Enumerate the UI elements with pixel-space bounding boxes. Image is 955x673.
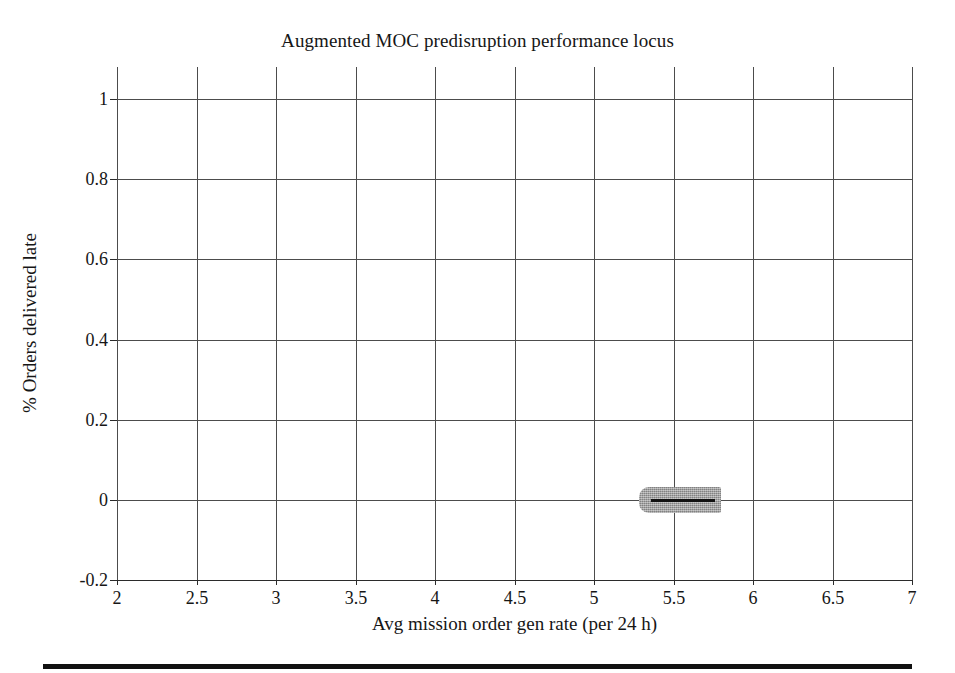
y-tick-label: 0.2 [86, 410, 109, 431]
y-tick-mark [110, 580, 117, 581]
x-tick-label: 2.5 [186, 588, 209, 609]
x-tick-mark [356, 580, 357, 585]
x-gridline [594, 67, 595, 580]
x-gridline [197, 67, 198, 580]
y-tick-label: -0.2 [80, 570, 109, 591]
x-tick-label: 4 [431, 588, 440, 609]
plot-area: 22.533.544.555.566.57-0.200.20.40.60.81 [117, 67, 912, 580]
x-tick-mark [515, 580, 516, 585]
y-gridline [117, 259, 912, 260]
series-core-line [651, 499, 716, 502]
x-gridline [753, 67, 754, 580]
x-tick-mark [912, 580, 913, 585]
y-tick-label: 0.4 [86, 330, 109, 351]
x-gridline [833, 67, 834, 580]
y-gridline [117, 340, 912, 341]
x-gridline [435, 67, 436, 580]
y-tick-label: 1 [99, 89, 108, 110]
x-tick-mark [674, 580, 675, 585]
x-tick-mark [197, 580, 198, 585]
x-tick-label: 4.5 [504, 588, 527, 609]
x-tick-mark [117, 580, 118, 585]
y-tick-label: 0.8 [86, 169, 109, 190]
x-tick-mark [753, 580, 754, 585]
x-tick-mark [833, 580, 834, 585]
y-tick-label: 0.6 [86, 249, 109, 270]
x-tick-label: 5.5 [663, 588, 686, 609]
y-tick-mark [110, 259, 117, 260]
chart-title: Augmented MOC predisruption performance … [0, 30, 955, 52]
y-tick-mark [110, 179, 117, 180]
y-gridline [117, 420, 912, 421]
x-tick-label: 6.5 [822, 588, 845, 609]
x-gridline [912, 67, 913, 580]
x-tick-label: 3.5 [345, 588, 368, 609]
y-gridline [117, 500, 912, 501]
x-tick-mark [594, 580, 595, 585]
x-gridline [276, 67, 277, 580]
x-axis-label: Avg mission order gen rate (per 24 h) [117, 613, 912, 635]
x-tick-label: 7 [908, 588, 917, 609]
x-gridline [356, 67, 357, 580]
y-tick-mark [110, 420, 117, 421]
x-tick-mark [276, 580, 277, 585]
y-tick-mark [110, 99, 117, 100]
x-tick-label: 5 [590, 588, 599, 609]
y-axis-label: % Orders delivered late [19, 233, 41, 413]
x-gridline [515, 67, 516, 580]
x-tick-label: 3 [272, 588, 281, 609]
y-tick-mark [110, 340, 117, 341]
x-tick-mark [435, 580, 436, 585]
y-gridline [117, 99, 912, 100]
footer-rule [43, 664, 912, 669]
y-tick-label: 0 [99, 490, 108, 511]
x-tick-label: 6 [749, 588, 758, 609]
x-gridline [117, 67, 118, 580]
x-tick-label: 2 [113, 588, 122, 609]
y-gridline [117, 179, 912, 180]
y-tick-mark [110, 500, 117, 501]
